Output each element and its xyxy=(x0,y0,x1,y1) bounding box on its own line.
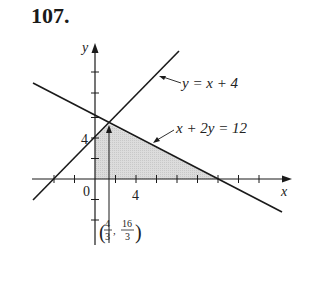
svg-text:,: , xyxy=(113,224,116,236)
frac-num-y: 16 xyxy=(122,218,132,229)
origin-label: 0 xyxy=(83,184,90,199)
graph: y = x + 4 x + 2y = 12 y x 0 4 4 ( 4 3 , … xyxy=(0,0,309,294)
frac-num-x: 4 xyxy=(105,218,110,229)
callout-line1 xyxy=(159,76,181,83)
frac-den-x: 3 xyxy=(105,231,110,242)
callout-line2 xyxy=(153,130,174,143)
label-line2: x + 2y = 12 xyxy=(175,120,248,136)
line-x-plus-2y-equals-12 xyxy=(33,83,282,212)
x-tick-label-4: 4 xyxy=(132,188,139,203)
y-tick-label-4: 4 xyxy=(81,132,88,147)
y-axis-arrow-icon xyxy=(92,43,99,53)
label-line1: y = x + 4 xyxy=(180,75,239,91)
x-axis-label: x xyxy=(280,184,288,199)
y-axis-label: y xyxy=(80,40,89,55)
x-axis-arrow-icon xyxy=(282,176,292,183)
svg-text:): ) xyxy=(135,221,142,244)
intersection-label: ( 4 3 , 16 3 ) xyxy=(99,218,142,244)
frac-den-y: 3 xyxy=(125,231,130,242)
